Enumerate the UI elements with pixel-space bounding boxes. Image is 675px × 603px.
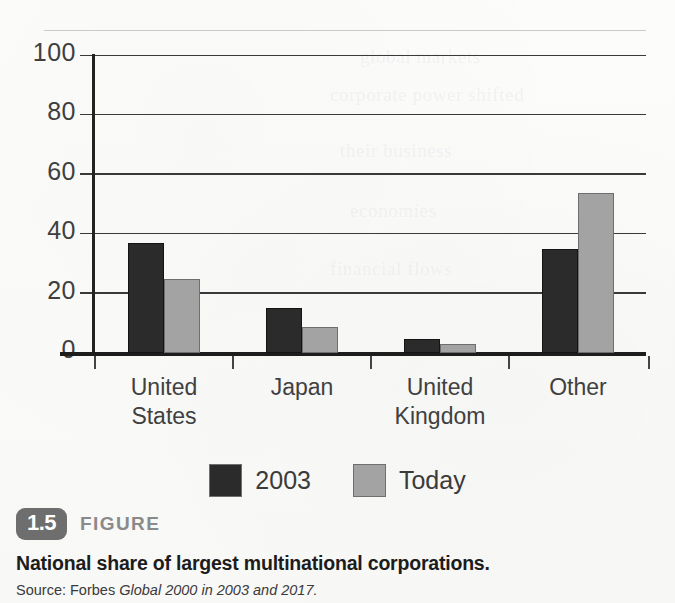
- figure-caption-block: 1.5 FIGURE National share of largest mul…: [16, 506, 656, 598]
- bar-japan-2003: [266, 308, 302, 353]
- category-label-line: Other: [498, 373, 658, 402]
- bar-other-today: [578, 193, 614, 353]
- bar-chart: 020406080100 UnitedStatesJapanUnitedKing…: [0, 0, 675, 440]
- category-label-other: Other: [498, 373, 658, 402]
- bar-united-states-today: [164, 279, 200, 353]
- legend-label-today: Today: [399, 466, 466, 495]
- legend-label-2003: 2003: [255, 466, 311, 495]
- category-label-line: States: [84, 402, 244, 431]
- category-label-japan: Japan: [222, 373, 382, 402]
- chart-legend: 2003Today: [0, 458, 675, 502]
- category-label-line: United: [360, 373, 520, 402]
- x-tick-4: [648, 356, 650, 369]
- figure-kicker: FIGURE: [80, 513, 160, 535]
- x-tick-1: [232, 356, 234, 369]
- x-tick-2: [370, 356, 372, 369]
- source-publisher: Forbes: [70, 582, 115, 598]
- category-label-united-kingdom: UnitedKingdom: [360, 373, 520, 431]
- bar-other-2003: [542, 249, 578, 353]
- legend-swatch-2003: [209, 464, 242, 497]
- category-label-united-states: UnitedStates: [84, 373, 244, 431]
- x-tick-3: [508, 356, 510, 369]
- bar-japan-today: [302, 327, 338, 353]
- category-label-line: Kingdom: [360, 402, 520, 431]
- x-tick-0: [94, 356, 96, 369]
- figure-source: Source: Forbes Global 2000 in 2003 and 2…: [16, 582, 656, 598]
- figure-page: global markets corporate power shifted t…: [0, 0, 675, 603]
- source-dataset: Global 2000 in 2003 and 2017.: [119, 582, 317, 598]
- figure-number-badge: 1.5: [16, 508, 67, 540]
- source-prefix: Source:: [16, 582, 66, 598]
- figure-heading: 1.5 FIGURE: [16, 506, 656, 542]
- bar-united-kingdom-today: [440, 344, 476, 353]
- bars-layer: [0, 0, 675, 353]
- legend-swatch-today: [353, 464, 386, 497]
- bar-united-states-2003: [128, 243, 164, 353]
- category-label-line: Japan: [222, 373, 382, 402]
- legend-item-2003[interactable]: 2003: [209, 464, 311, 497]
- figure-title: National share of largest multinational …: [16, 552, 656, 575]
- bar-united-kingdom-2003: [404, 339, 440, 353]
- category-label-line: United: [84, 373, 244, 402]
- legend-item-today[interactable]: Today: [353, 464, 466, 497]
